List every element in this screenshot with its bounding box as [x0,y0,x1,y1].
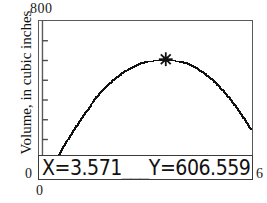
x-axis-max-label: 6 [256,166,263,182]
y-axis-title: Volume, in cubic inches [18,3,35,163]
x-axis-min-label: 0 [36,183,43,199]
y-axis-max-label: 800 [30,1,53,17]
trace-readout-text: X=3.571___Y=606.559 [39,157,250,178]
trace-readout-bar: X=3.571___Y=606.559 [38,155,253,180]
y-axis-min-label: 0 [25,166,32,182]
calculator-graph-screen: Volume, in cubic inches 800 0 0 6 X=3.57… [0,0,267,203]
